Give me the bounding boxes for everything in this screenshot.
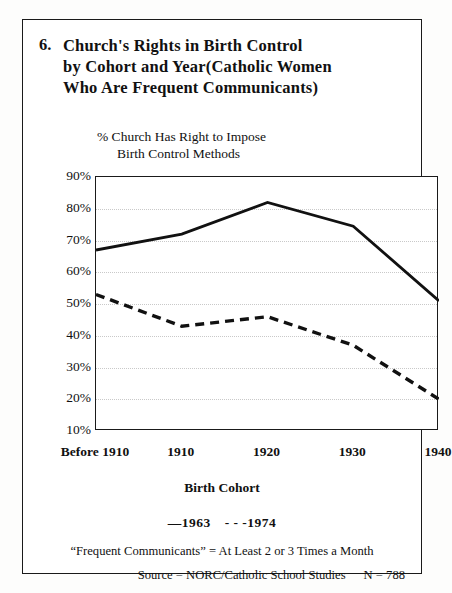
y-axis-tick-label: 40%	[45, 327, 91, 343]
x-axis-tick-label: 1910	[167, 444, 194, 460]
source-text: Source = NORC/Catholic School Studies	[138, 568, 346, 582]
footnote: “Frequent Communicants” = At Least 2 or …	[23, 544, 421, 559]
legend-item-1963: —1963	[168, 515, 211, 530]
x-axis-ticks: Before 19101910192019301940	[53, 444, 445, 464]
y-axis-tick-label: 50%	[45, 295, 91, 311]
y-axis-tick-label: 30%	[45, 359, 91, 375]
y-axis-tick-label: 60%	[45, 263, 91, 279]
figure-number: 6.	[33, 35, 63, 98]
x-axis-tick-label: Before 1910	[61, 444, 129, 460]
y-axis-caption-line-2: Birth Control Methods	[97, 145, 266, 162]
x-axis-title: Birth Cohort	[23, 480, 421, 496]
y-axis-tick-label: 90%	[45, 168, 91, 184]
data-lines	[96, 177, 439, 431]
source-line: Source = NORC/Catholic School StudiesN =…	[138, 568, 405, 583]
y-axis-tick-label: 80%	[45, 200, 91, 216]
y-axis-tick-label: 20%	[45, 390, 91, 406]
legend: —1963- - -1974	[23, 515, 421, 531]
series-line-1963	[96, 202, 439, 300]
figure-card: 6. Church's Rights in Birth Control by C…	[22, 19, 422, 574]
figure-title-line-1: Church's Rights in Birth Control	[63, 35, 332, 56]
y-axis-tick-label: 10%	[45, 422, 91, 438]
y-axis-caption: % Church Has Right to Impose Birth Contr…	[97, 128, 266, 162]
figure-title: Church's Rights in Birth Control by Coho…	[63, 35, 332, 98]
x-axis-tick-label: 1930	[339, 444, 366, 460]
legend-item-1974: - - -1974	[225, 515, 277, 530]
y-axis-caption-line-1: % Church Has Right to Impose	[97, 129, 266, 144]
x-axis-tick-label: 1940	[425, 444, 452, 460]
y-axis-tick-label: 70%	[45, 232, 91, 248]
x-axis-tick-label: 1920	[253, 444, 280, 460]
plot-area	[95, 176, 438, 430]
sample-size: N = 788	[364, 568, 405, 583]
figure-title-line-2: by Cohort and Year(Catholic Women	[63, 56, 332, 77]
series-line-1974	[96, 294, 439, 399]
figure-title-line-3: Who Are Frequent Communicants)	[63, 77, 332, 98]
figure-title-block: 6. Church's Rights in Birth Control by C…	[33, 35, 415, 98]
y-axis-ticks: 90%80%70%60%50%40%30%20%10%	[43, 176, 91, 430]
